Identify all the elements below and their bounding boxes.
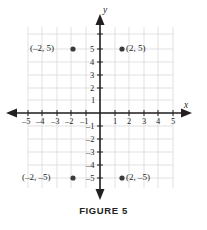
x-tick-label-5: 5	[171, 117, 175, 126]
x-tick-label-neg-4: –4	[36, 117, 45, 126]
y-tick-label-5: 5	[90, 45, 94, 54]
x-tick-label-1: 1	[113, 117, 117, 126]
point-label-2-neg5: (2, –5)	[126, 173, 150, 182]
y-axis-arrow-top	[96, 14, 105, 25]
y-tick-label-neg-5: –5	[86, 174, 95, 183]
y-tick-label-neg-1: –1	[86, 122, 95, 131]
data-point-3	[70, 175, 75, 180]
x-axis-arrow-left	[6, 109, 17, 118]
x-tick-label-neg-2: –2	[65, 117, 74, 126]
coordinate-plane-plot: x y –5 –4 –3 –2 –1 1 2 3 4 5 5 4 3 2 1 –…	[0, 0, 207, 202]
x-tick-label-4: 4	[156, 117, 160, 126]
x-tick-label-neg-5: –5	[22, 117, 31, 126]
data-point-2	[119, 46, 124, 51]
point-label-2-5: (2, 5)	[126, 44, 146, 53]
point-label-neg2-5: (–2, 5)	[30, 44, 54, 53]
data-point-1	[70, 46, 75, 51]
x-tick-label-3: 3	[142, 117, 146, 126]
x-tick-label-neg-3: –3	[51, 117, 60, 126]
y-tick-label-3: 3	[90, 71, 94, 80]
y-axis-arrow-bottom	[96, 189, 105, 200]
y-tick-label-neg-2: –2	[86, 135, 95, 144]
y-tick-label-4: 4	[90, 58, 94, 67]
figure-5-coordinate-plane: x y –5 –4 –3 –2 –1 1 2 3 4 5 5 4 3 2 1 –…	[0, 0, 207, 230]
figure-caption: FIGURE 5	[0, 205, 207, 216]
y-tick-label-neg-4: –4	[86, 161, 95, 170]
y-tick-label-2: 2	[90, 84, 94, 93]
y-tick-label-1: 1	[91, 96, 95, 105]
x-tick-label-2: 2	[127, 117, 131, 126]
point-label-neg2-neg5: (–2, –5)	[22, 173, 51, 182]
x-axis-label: x	[184, 101, 188, 111]
y-axis-label: y	[103, 6, 107, 16]
data-point-4	[119, 175, 124, 180]
y-tick-label-neg-3: –3	[86, 148, 95, 157]
